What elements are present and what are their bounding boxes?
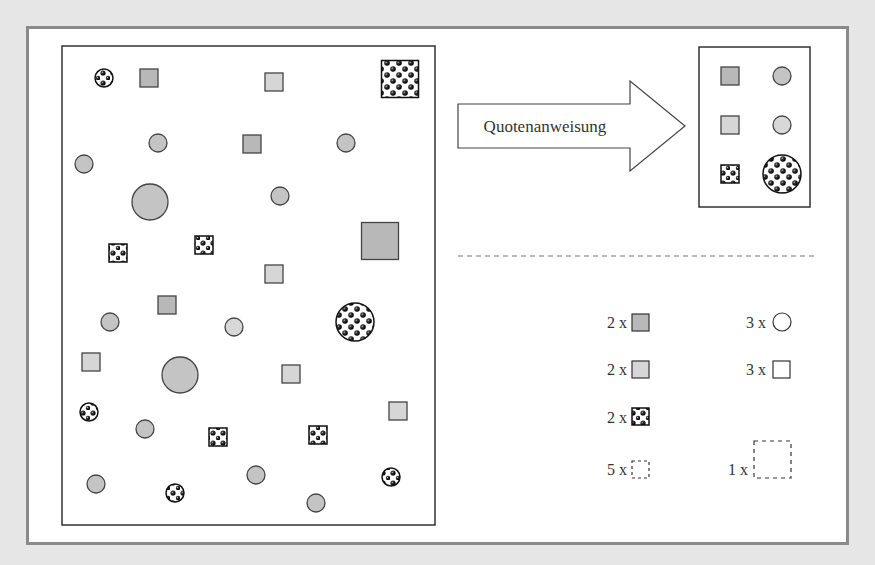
dark-square-icon	[721, 67, 739, 85]
light-square-icon	[82, 353, 100, 371]
light-square-icon	[721, 116, 739, 134]
pattern-circle-icon	[382, 468, 400, 486]
outline-circle-icon	[773, 313, 791, 331]
quota-sampling-diagram: Quotenanweisung 2 x 2 x 2 x 5 x 3 x 3 x …	[0, 0, 875, 565]
pattern-circle-icon	[166, 484, 184, 502]
quota-legend: 2 x 2 x 2 x 5 x 3 x 3 x 1 x	[607, 313, 791, 478]
circle-icon	[247, 466, 265, 484]
light-square-icon	[389, 402, 407, 420]
dashed-small-square-icon	[632, 461, 649, 478]
pattern-circle-icon	[95, 69, 113, 87]
light-square-icon	[632, 361, 649, 378]
dark-square-icon	[140, 69, 158, 87]
circle-icon	[149, 134, 167, 152]
pattern-square-icon	[632, 408, 649, 425]
circle-icon	[162, 357, 198, 393]
circle-light-icon	[773, 116, 791, 134]
dark-square-icon	[158, 296, 176, 314]
circle-icon	[136, 420, 154, 438]
quota-count: 5 x	[607, 461, 627, 478]
pattern-square-icon	[195, 236, 213, 254]
pattern-circle-icon	[763, 155, 801, 193]
dashed-large-square-icon	[754, 441, 791, 478]
light-square-icon	[265, 265, 283, 283]
light-square-icon	[265, 73, 283, 91]
circle-icon	[337, 134, 355, 152]
quota-count: 2 x	[607, 314, 627, 331]
circle-icon	[87, 475, 105, 493]
quota-count: 2 x	[607, 409, 627, 426]
pattern-square-icon	[382, 61, 419, 98]
dark-square-icon	[243, 135, 261, 153]
population-box	[62, 46, 435, 525]
pattern-circle-icon	[80, 403, 98, 421]
arrow: Quotenanweisung	[458, 81, 685, 171]
outline-square-icon	[773, 361, 790, 378]
pattern-square-icon	[721, 165, 739, 183]
dark-square-icon	[362, 223, 399, 260]
pattern-circle-icon	[336, 303, 374, 341]
light-square-icon	[282, 365, 300, 383]
dark-square-icon	[632, 314, 649, 331]
circle-icon	[307, 494, 325, 512]
pattern-square-icon	[309, 426, 327, 444]
quota-count: 3 x	[746, 361, 766, 378]
quota-count: 2 x	[607, 361, 627, 378]
arrow-label: Quotenanweisung	[484, 117, 607, 136]
circle-icon	[773, 67, 791, 85]
circle-icon	[75, 155, 93, 173]
circle-light-icon	[225, 318, 243, 336]
circle-icon	[101, 313, 119, 331]
quota-count: 1 x	[728, 461, 748, 478]
pattern-square-icon	[209, 428, 227, 446]
circle-icon	[132, 184, 168, 220]
pattern-square-icon	[109, 244, 127, 262]
quota-count: 3 x	[746, 314, 766, 331]
circle-icon	[271, 187, 289, 205]
